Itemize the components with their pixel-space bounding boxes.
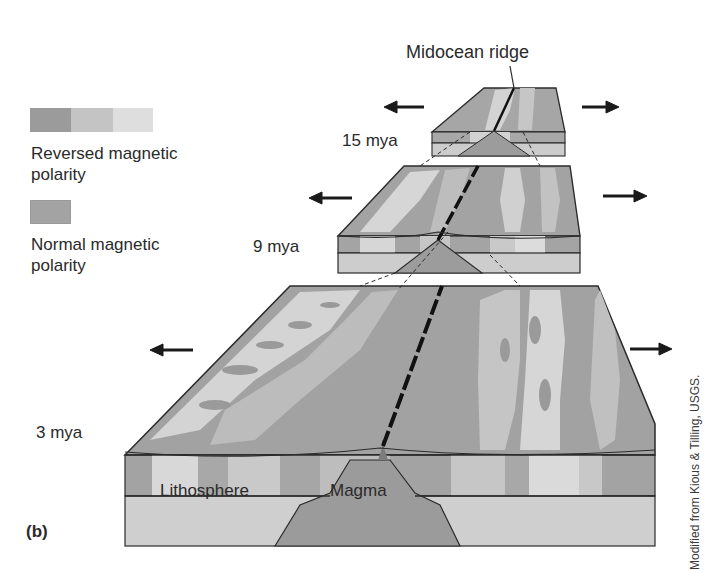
swatch-light: [113, 108, 153, 132]
arrow-left-icon: [309, 192, 352, 204]
legend-normal-swatch: [30, 200, 71, 224]
image-credit: Modified from Kious & Tilling, USGS.: [688, 375, 702, 570]
block-3-top-surface: [125, 286, 655, 455]
arrow-left-icon: [150, 344, 193, 356]
legend-reversed-line2: polarity: [31, 164, 86, 185]
swatch-dark: [30, 108, 71, 132]
block-9-mya: [338, 166, 580, 273]
block-15-mya: [432, 66, 565, 156]
swatch-mid: [71, 108, 113, 132]
panel-label: (b): [26, 522, 48, 542]
arrow-right-icon: [582, 101, 619, 113]
arrow-right-icon: [630, 343, 672, 355]
age-label-3-mya: 3 mya: [36, 422, 82, 443]
legend-normal-line2: polarity: [31, 255, 86, 276]
arrow-left-icon: [384, 101, 424, 113]
block-3-mya: [125, 286, 655, 546]
arrow-right-icon: [603, 190, 647, 202]
age-label-15-mya: 15 mya: [342, 130, 398, 151]
legend-normal-line1: Normal magnetic: [31, 234, 160, 255]
legend-reversed-line1: Reversed magnetic: [31, 143, 177, 164]
magma-label: Magma: [330, 480, 387, 501]
midocean-ridge-label: Midocean ridge: [406, 42, 529, 63]
lithosphere-label: Lithosphere: [160, 480, 249, 501]
age-label-9-mya: 9 mya: [253, 236, 299, 257]
